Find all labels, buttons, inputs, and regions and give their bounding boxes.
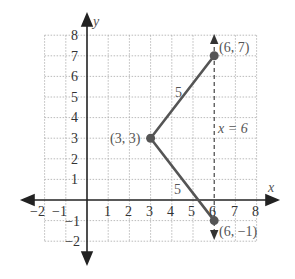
vline-up-arrow-icon — [210, 34, 218, 44]
segment-length-upper: 5 — [175, 85, 182, 100]
point-6-7 — [210, 51, 219, 60]
svg-text:6: 6 — [71, 69, 78, 84]
svg-text:7: 7 — [71, 49, 78, 64]
y-axis-label: y — [91, 14, 100, 29]
svg-text:−1: −1 — [52, 204, 67, 219]
segment-length-lower: 5 — [174, 182, 181, 197]
svg-text:1: 1 — [104, 204, 111, 219]
coordinate-plane: y x 8 7 6 5 4 3 2 1 −1 −2 −2 −1 1 2 3 4 … — [0, 0, 295, 279]
x-axis-right-arrow-icon — [266, 195, 278, 205]
svg-text:8: 8 — [71, 28, 78, 43]
y-axis-up-arrow-icon — [82, 14, 92, 26]
svg-text:7: 7 — [231, 204, 238, 219]
svg-text:4: 4 — [71, 110, 78, 125]
svg-text:−2: −2 — [30, 204, 45, 219]
point-3-3 — [146, 134, 155, 143]
vline-label: x = 6 — [217, 121, 248, 136]
svg-text:4: 4 — [167, 204, 174, 219]
point-label-6-7: (6, 7) — [219, 40, 250, 56]
x-tick-labels: −2 −1 1 2 3 4 5 6 7 8 — [30, 204, 259, 219]
svg-text:3: 3 — [146, 204, 153, 219]
svg-text:2: 2 — [71, 152, 78, 167]
point-label-3-3: (3, 3) — [110, 131, 141, 147]
svg-text:3: 3 — [71, 131, 78, 146]
svg-text:2: 2 — [125, 204, 132, 219]
svg-text:−1: −1 — [65, 214, 80, 229]
svg-text:−2: −2 — [65, 234, 80, 249]
svg-text:6: 6 — [209, 204, 216, 219]
x-axis-label: x — [267, 180, 275, 195]
svg-text:8: 8 — [252, 204, 259, 219]
y-axis-down-arrow-icon — [82, 252, 92, 264]
point-label-6-neg1: (6, −1) — [219, 224, 258, 240]
svg-text:5: 5 — [71, 90, 78, 105]
vline-down-arrow-icon — [210, 230, 218, 240]
y-tick-labels: 8 7 6 5 4 3 2 1 −1 −2 — [65, 28, 80, 249]
svg-text:5: 5 — [188, 204, 195, 219]
svg-text:1: 1 — [71, 172, 78, 187]
